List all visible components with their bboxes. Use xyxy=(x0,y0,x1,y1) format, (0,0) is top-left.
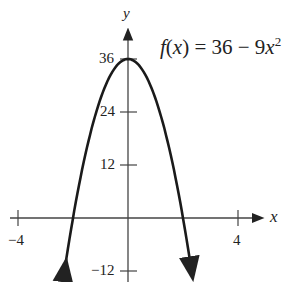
x-tick-label-neg4: −4 xyxy=(8,233,24,248)
x-tick-label-4: 4 xyxy=(233,233,241,248)
y-tick-label-12: 12 xyxy=(100,157,115,172)
y-axis-label: y xyxy=(123,6,130,21)
y-tick-label-36: 36 xyxy=(99,51,114,66)
y-tick-label-neg12: −12 xyxy=(91,263,114,278)
function-label: f(x) = 36 − 9x2 xyxy=(160,34,281,60)
x-axis-label: x xyxy=(270,208,278,225)
y-tick-label-24: 24 xyxy=(100,104,115,119)
